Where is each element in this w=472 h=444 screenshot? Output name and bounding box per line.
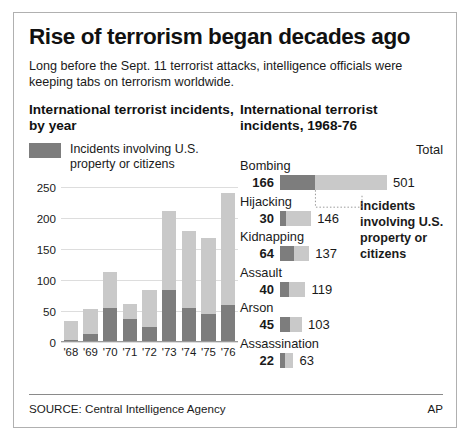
- bar-segment-us-involved: [162, 290, 177, 341]
- bar-segment-us-involved: [142, 327, 157, 341]
- y-axis-tick-label: 150: [37, 242, 56, 255]
- category-bar-line: 166501: [240, 174, 443, 192]
- x-axis-tick-label: '75: [201, 346, 216, 358]
- category-bar-total: [280, 211, 311, 226]
- category-bar-us-involved: [280, 353, 285, 368]
- category-bar-us-involved: [280, 282, 289, 297]
- category-bar-line: 2263: [240, 352, 443, 370]
- yearly-incidents-chart: 050100150200250 '68'69'70'71'72'73'74'75…: [29, 179, 240, 364]
- x-axis-tick-label: '68: [63, 346, 78, 358]
- footer-divider: [29, 394, 443, 395]
- y-axis-tick-label: 250: [37, 180, 56, 193]
- y-axis-tick-label: 100: [37, 273, 56, 286]
- bar-group: '74: [182, 187, 197, 342]
- category-us-value: 40: [240, 282, 280, 297]
- category-bar-us-involved: [280, 175, 315, 190]
- bar-group: '72: [142, 187, 157, 342]
- x-axis-tick-label: '74: [181, 346, 196, 358]
- infographic-body: Rise of terrorism began decades ago Long…: [29, 25, 443, 419]
- legend: Incidents involving U.S. property or cit…: [29, 142, 240, 172]
- left-panel: International terrorist incidents, by ye…: [29, 102, 240, 372]
- credit-text: AP: [428, 402, 443, 415]
- category-total-value: 103: [302, 317, 330, 332]
- category-row: Assault40119: [240, 265, 443, 299]
- chart-columns: International terrorist incidents, by ye…: [29, 102, 443, 372]
- x-axis-tick-label: '76: [221, 346, 236, 358]
- bar-segment-total: [64, 321, 79, 342]
- category-total-value: 63: [293, 353, 313, 368]
- category-bar-us-involved: [280, 246, 294, 261]
- yearly-chart-bars: '68'69'70'71'72'73'74'75'76: [61, 187, 238, 342]
- category-label: Arson: [240, 300, 443, 316]
- legend-label: Incidents involving U.S. property or cit…: [70, 142, 220, 172]
- category-bar-total: [280, 317, 302, 332]
- bar-group: '75: [201, 187, 216, 342]
- category-us-value: 166: [240, 175, 280, 190]
- yearly-chart-axis: [61, 341, 238, 342]
- category-total-value: 501: [387, 175, 415, 190]
- bar-group: '69: [83, 187, 98, 342]
- page-title: Rise of terrorism began decades ago: [29, 25, 443, 49]
- deck-text: Long before the Sept. 11 terrorist attac…: [29, 58, 439, 90]
- yearly-chart-plot: 050100150200250 '68'69'70'71'72'73'74'75…: [61, 187, 238, 342]
- right-panel-title: International terrorist incidents, 1968-…: [240, 102, 443, 134]
- x-axis-tick-label: '70: [103, 346, 118, 358]
- category-bar-us-involved: [280, 211, 286, 226]
- category-bar-total: [280, 282, 305, 297]
- source-text: SOURCE: Central Intelligence Agency: [29, 402, 226, 415]
- bar-segment-us-involved: [182, 308, 197, 342]
- legend-swatch-us-involved: [29, 143, 61, 158]
- bar-group: '70: [103, 187, 118, 342]
- category-us-value: 22: [240, 353, 280, 368]
- category-bar-line: 45103: [240, 316, 443, 334]
- category-label: Assassination: [240, 336, 443, 352]
- category-total-value: 146: [311, 211, 339, 226]
- category-row: Assassination2263: [240, 336, 443, 370]
- category-total-value: 137: [309, 246, 337, 261]
- category-label: Bombing: [240, 158, 443, 174]
- footer: SOURCE: Central Intelligence Agency AP: [29, 402, 443, 415]
- category-bar-total: [280, 246, 309, 261]
- category-label: Assault: [240, 265, 443, 281]
- category-us-value: 30: [240, 211, 280, 226]
- bar-segment-us-involved: [221, 305, 236, 342]
- infographic-frame: Rise of terrorism began decades ago Long…: [13, 12, 457, 428]
- y-axis-tick-label: 0: [50, 335, 56, 348]
- x-axis-tick-label: '69: [83, 346, 98, 358]
- category-bar-us-involved: [280, 317, 290, 332]
- total-column-header: Total: [416, 142, 443, 157]
- category-row: Bombing166501: [240, 158, 443, 192]
- gridline: 0: [61, 342, 238, 343]
- right-panel: International terrorist incidents, 1968-…: [240, 102, 443, 372]
- x-axis-tick-label: '73: [162, 346, 177, 358]
- category-bar-total: [280, 175, 387, 190]
- bar-group: '71: [123, 187, 138, 342]
- left-panel-title: International terrorist incidents, by ye…: [29, 102, 240, 134]
- bar-group: '68: [64, 187, 79, 342]
- x-axis-tick-label: '72: [142, 346, 157, 358]
- callout-annotation: Incidents involving U.S. property or cit…: [360, 198, 446, 262]
- category-total-value: 119: [305, 282, 332, 297]
- bar-segment-us-involved: [103, 308, 118, 341]
- category-bar-line: 40119: [240, 280, 443, 298]
- category-row: Arson45103: [240, 300, 443, 334]
- totals-header-row: Total: [240, 142, 443, 158]
- category-us-value: 64: [240, 246, 280, 261]
- bar-group: '73: [162, 187, 177, 342]
- y-axis-tick-label: 50: [43, 304, 56, 317]
- x-axis-tick-label: '71: [122, 346, 137, 358]
- category-bar-total: [280, 353, 293, 368]
- bar-segment-us-involved: [123, 319, 138, 341]
- category-rows: Bombing166501Hijacking30146Kidnapping641…: [240, 158, 443, 370]
- bar-group: '76: [221, 187, 236, 342]
- y-axis-tick-label: 200: [37, 211, 56, 224]
- bar-segment-us-involved: [201, 314, 216, 342]
- category-us-value: 45: [240, 317, 280, 332]
